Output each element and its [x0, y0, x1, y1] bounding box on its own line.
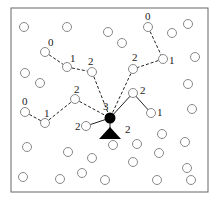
- sensor-node-circle-icon: [129, 89, 138, 98]
- sensor-node-circle-icon: [168, 29, 177, 38]
- dashed-edge: [148, 27, 163, 59]
- sensor-node-circle-icon: [21, 108, 30, 117]
- hop-count-label: 1: [169, 54, 175, 66]
- sensor-node-circle-icon: [78, 169, 87, 178]
- sensor-node-circle-icon: [21, 69, 30, 78]
- hop-count-label: 2: [140, 84, 146, 96]
- hop-count-label: 1: [157, 106, 163, 118]
- hop-count-label: 0: [145, 10, 151, 22]
- hop-count-label: 2: [75, 120, 81, 132]
- sensor-node-circle-icon: [118, 39, 127, 48]
- sensor-node-circle-icon: [71, 95, 80, 104]
- sensor-node-circle-icon: [101, 176, 110, 185]
- cluster-head-label: 3: [103, 100, 109, 112]
- sensor-node-circle-icon: [159, 55, 168, 64]
- hop-count-label: 1: [70, 52, 76, 64]
- hop-count-label: 0: [48, 36, 54, 48]
- hop-count-label: 2: [74, 83, 80, 95]
- sensor-node-circle-icon: [129, 158, 138, 167]
- sensor-node-circle-icon: [184, 80, 193, 89]
- sensor-node-circle-icon: [153, 176, 162, 185]
- sensor-network-diagram: 012012012212 3 2: [0, 0, 220, 203]
- sensor-node-circle-icon: [82, 122, 91, 131]
- hop-count-label: 1: [44, 107, 50, 119]
- sensor-node-circle-icon: [88, 154, 97, 163]
- direct-links: [86, 93, 151, 128]
- sensor-node-circle-icon: [56, 175, 65, 184]
- sensor-node-circle-icon: [129, 65, 138, 74]
- sensor-node-circle-icon: [144, 23, 153, 32]
- sensor-node-circle-icon: [133, 140, 142, 149]
- sensor-node-circle-icon: [63, 23, 72, 32]
- sensor-node-circle-icon: [191, 53, 200, 62]
- sensor-node-circle-icon: [36, 79, 45, 88]
- sensor-node-circle-icon: [104, 28, 113, 37]
- sensor-node-circle-icon: [155, 149, 164, 158]
- hop-count-label: 0: [22, 95, 28, 107]
- sensor-node-circle-icon: [41, 119, 50, 128]
- sensor-node-circle-icon: [181, 138, 190, 147]
- sensor-node-circle-icon: [19, 173, 28, 182]
- sensor-node-circle-icon: [109, 141, 118, 150]
- hop-count-label: 2: [88, 55, 94, 67]
- sink-triangle-icon: [99, 127, 121, 139]
- cluster-head-node: [105, 113, 116, 124]
- sensor-node-circle-icon: [184, 20, 193, 29]
- sensor-node-circle-icon: [158, 130, 167, 139]
- sensor-node-circle-icon: [23, 143, 32, 152]
- sensor-node-circle-icon: [183, 164, 192, 173]
- sensor-node-circle-icon: [64, 148, 73, 157]
- sensor-node-circle-icon: [20, 23, 29, 32]
- dashed-edge: [45, 99, 75, 123]
- sensor-node-circle-icon: [187, 176, 196, 185]
- sensor-node-circle-icon: [147, 109, 156, 118]
- sensor-node-circle-icon: [188, 105, 197, 114]
- sensor-node-circle-icon: [88, 68, 97, 77]
- sensor-nodes: [19, 20, 200, 185]
- sensor-node-circle-icon: [41, 48, 50, 57]
- hop-count-label: 2: [132, 51, 138, 63]
- sink-label: 2: [125, 123, 131, 135]
